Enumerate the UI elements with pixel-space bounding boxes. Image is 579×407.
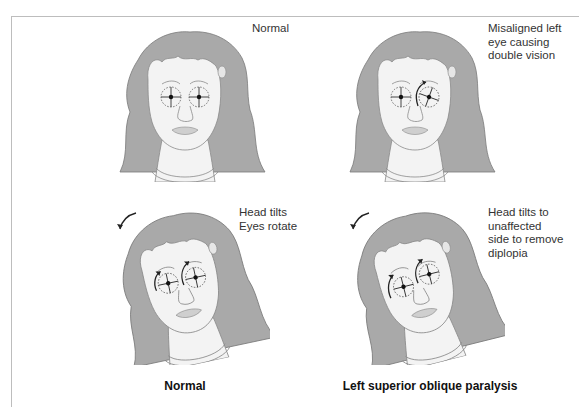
note-palsy-tilted: Head tilts to unaffected side to remove … bbox=[488, 206, 563, 260]
panel-palsy-tilted bbox=[335, 205, 505, 365]
note-normal-upright: Normal bbox=[252, 22, 289, 36]
face-illustration bbox=[330, 22, 500, 182]
caption-left-superior-oblique-paralysis: Left superior oblique paralysis bbox=[330, 379, 530, 393]
face-illustration bbox=[335, 205, 505, 365]
note-normal-tilted: Head tilts Eyes rotate bbox=[239, 206, 297, 233]
frame-left-border bbox=[11, 16, 12, 407]
note-palsy-upright: Misaligned left eye causing double visio… bbox=[488, 22, 562, 63]
panel-palsy-upright bbox=[330, 22, 500, 182]
head-tilt-arrow-icon bbox=[353, 213, 369, 229]
frame-top-border bbox=[11, 16, 579, 17]
head-tilt-arrow-icon bbox=[120, 213, 136, 229]
face-illustration bbox=[100, 22, 270, 182]
panel-normal-upright bbox=[100, 22, 270, 182]
caption-normal: Normal bbox=[135, 379, 235, 393]
